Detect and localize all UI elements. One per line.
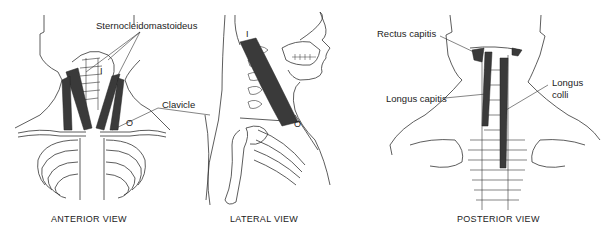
lateral-view-drawing (208, 12, 330, 205)
label-longus-capitis: Longus capitis (386, 93, 447, 104)
label-clavicle: Clavicle (162, 99, 195, 110)
marker-origin-lateral: O (294, 119, 301, 129)
anterior-scm-muscles (62, 68, 124, 130)
caption-posterior-view: POSTERIOR VIEW (457, 214, 540, 224)
label-longus-colli-line1: Longus (552, 77, 583, 88)
marker-insertion-lateral: I (246, 29, 249, 39)
caption-lateral-view: LATERAL VIEW (230, 214, 298, 224)
marker-insertion-anterior: I (100, 66, 103, 76)
caption-anterior-view: ANTERIOR VIEW (51, 214, 127, 224)
neck-muscles-diagram: Sternocleidomastoideus Clavicle I O ANTE… (0, 0, 609, 234)
label-sternocleidomastoideus: Sternocleidomastoideus (96, 20, 197, 31)
marker-origin-anterior: O (126, 118, 133, 128)
label-longus-colli-line2: colli (552, 89, 568, 100)
label-rectus-capitis: Rectus capitis (377, 28, 436, 39)
anatomy-illustration (0, 0, 609, 234)
posterior-view-drawing (390, 15, 600, 210)
lateral-scm-muscle (240, 38, 298, 126)
